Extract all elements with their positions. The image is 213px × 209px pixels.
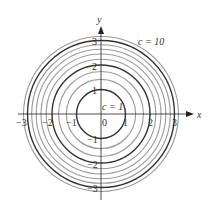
y-tick: −2 bbox=[87, 159, 98, 170]
x-tick: −2 bbox=[42, 117, 53, 128]
origin-label: 0 bbox=[102, 117, 107, 128]
x-tick: −1 bbox=[66, 117, 77, 128]
y-axis-label: y bbox=[96, 14, 102, 25]
y-tick: 2 bbox=[92, 61, 97, 72]
y-tick: 1 bbox=[92, 85, 97, 96]
x-axis-label: x bbox=[196, 109, 202, 120]
annotation-c1: c = 1 bbox=[102, 101, 123, 112]
x-tick: 3 bbox=[172, 117, 177, 128]
x-tick: 1 bbox=[123, 117, 128, 128]
x-tick: −3 bbox=[16, 117, 27, 128]
contour-plot: x y −3 −2 −1 0 1 2 3 3 2 1 −1 −2 −3 c = … bbox=[0, 0, 213, 209]
y-axis-arrow-icon bbox=[98, 26, 104, 34]
annotation-c10: c = 10 bbox=[138, 36, 164, 47]
y-tick: −1 bbox=[87, 134, 98, 145]
y-tick: −3 bbox=[87, 183, 98, 194]
y-tick: 3 bbox=[92, 36, 97, 47]
x-axis-arrow-icon bbox=[186, 111, 194, 117]
x-tick: 2 bbox=[148, 117, 153, 128]
